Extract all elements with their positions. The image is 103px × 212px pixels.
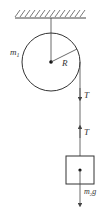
label-weight: m2g: [84, 187, 96, 197]
label-radius: R: [61, 58, 68, 68]
ceiling-support: [15, 10, 86, 18]
label-tension-top: T: [84, 90, 90, 100]
label-m1: m1: [10, 47, 20, 58]
pulley-diagram: m1 R T T m2g: [0, 0, 103, 212]
label-tension-bottom: T: [84, 127, 90, 137]
